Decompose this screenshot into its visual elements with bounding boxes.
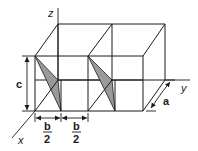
shaded-plane-2 — [88, 56, 115, 111]
crystal-cell-diagram: z y x c a b 2 b 2 — [0, 0, 198, 151]
fraction-2-numerator: b — [73, 120, 80, 132]
x-axis-label: x — [17, 134, 24, 146]
shaded-plane-1 — [35, 56, 61, 111]
c-label: c — [16, 78, 22, 90]
a-label: a — [163, 95, 170, 107]
fraction-2: b 2 — [72, 120, 81, 145]
x-axis — [12, 111, 35, 138]
y-axis-label: y — [180, 82, 188, 94]
back-face — [58, 24, 165, 80]
fraction-1-numerator: b — [44, 120, 51, 132]
dimension-b-half — [35, 113, 88, 122]
dimension-a — [146, 80, 175, 111]
fraction-2-denominator: 2 — [73, 133, 79, 145]
dimension-c — [22, 56, 35, 111]
fraction-1: b 2 — [43, 120, 52, 145]
z-axis-label: z — [47, 7, 54, 19]
fraction-1-denominator: 2 — [44, 133, 50, 145]
